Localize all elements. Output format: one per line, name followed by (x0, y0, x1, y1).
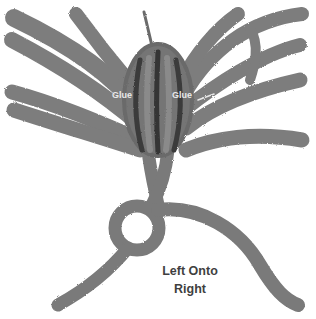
caption-line-2: Right (130, 280, 250, 298)
glue-label-left: Glue (112, 90, 132, 100)
gathered-bundle (124, 44, 192, 156)
step-caption: Left Onto Right (130, 262, 250, 298)
knot-diagram: Glue Glue Left Onto Right (0, 0, 316, 319)
thread-tip (144, 12, 152, 46)
caption-line-1: Left Onto (130, 262, 250, 280)
right-strands (182, 14, 302, 150)
left-strands (12, 14, 140, 150)
glue-label-right: Glue (172, 90, 192, 100)
